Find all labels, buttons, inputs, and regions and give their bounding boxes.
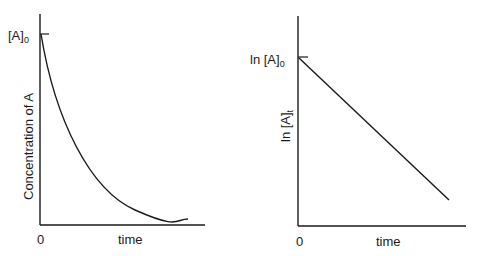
x-origin-label: 0 [37, 232, 44, 247]
concentration-chart: [A]0 0 time Concentration of A [8, 14, 205, 247]
decay-curve [41, 34, 188, 222]
ln-concentration-chart: ln [A]0 0 time ln [A]t [250, 16, 466, 249]
linear-decay-line [299, 58, 449, 200]
y-axis-label: Concentration of A [21, 93, 36, 200]
x-axis-label: time [118, 232, 143, 247]
kinetics-figure: [A]0 0 time Concentration of A ln [A]0 0… [0, 0, 480, 256]
x-axis-label: time [376, 234, 401, 249]
x-origin-label: 0 [296, 234, 303, 249]
y-tick-label-ln-a0: ln [A]0 [250, 52, 285, 69]
y-axis-label: ln [A]t [278, 109, 295, 142]
y-tick-label-a0: [A]0 [8, 28, 29, 45]
